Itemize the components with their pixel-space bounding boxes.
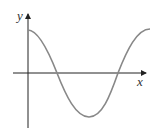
x-axis-label: x bbox=[136, 74, 143, 89]
graph-canvas: y x bbox=[0, 0, 153, 138]
y-axis-label: y bbox=[15, 8, 23, 23]
